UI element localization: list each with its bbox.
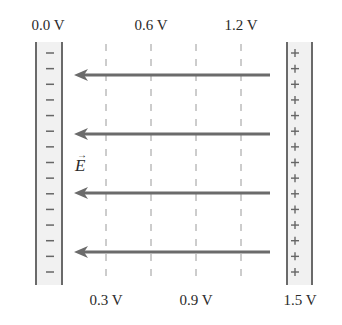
equipotential-label: 0.6 V [134,17,167,33]
right-plate-voltage-label: 1.5 V [283,292,316,308]
equipotential-label: 0.3 V [89,292,122,308]
equipotential-lines [106,44,241,282]
equipotential-label: 0.9 V [179,292,212,308]
right-plate [287,42,312,285]
left-plate-fill [36,42,62,285]
electric-field-label: E → [74,149,87,175]
left-plate-voltage-label: 0.0 V [31,17,64,33]
equipotential-label: 1.2 V [224,17,257,33]
right-plate-fill [287,42,312,285]
equipotential-labels: 0.3 V0.6 V0.9 V1.2 V [89,17,257,308]
left-plate [36,42,62,285]
capacitor-diagram: 0.0 V 1.5 V 0.3 V0.6 V0.9 V1.2 V E → [0,0,342,325]
vector-arrow-icon: → [77,149,87,160]
